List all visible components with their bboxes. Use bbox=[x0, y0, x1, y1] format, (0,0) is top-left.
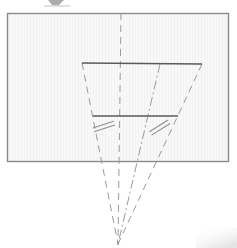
corner-smudge-artifact bbox=[196, 228, 237, 248]
image-plane-rectangle bbox=[8, 14, 229, 162]
figure-root: Perspective projection geometry diagram bbox=[0, 0, 237, 248]
top-scan-artifact-bar bbox=[44, 5, 70, 7]
vanishing-point bbox=[117, 243, 119, 245]
projection-diagram-canvas bbox=[0, 0, 237, 248]
